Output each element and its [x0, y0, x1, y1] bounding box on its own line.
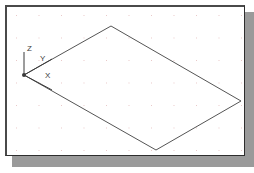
isometric-drawing-canvas[interactable]: Z Y X [7, 7, 244, 155]
z-axis-label: Z [27, 45, 32, 53]
drawing-panel[interactable]: Z Y X [5, 5, 245, 156]
isometric-rectangle[interactable] [24, 26, 241, 150]
y-axis-label: Y [40, 55, 45, 63]
screenshot-root: Z Y X [0, 0, 254, 173]
drawing-vectors [7, 7, 244, 155]
ucs-origin-marker [22, 73, 26, 77]
x-axis-label: X [45, 72, 50, 80]
